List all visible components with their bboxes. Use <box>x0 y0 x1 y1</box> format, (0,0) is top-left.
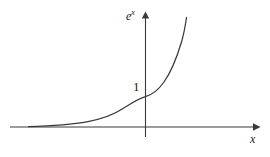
y-axis-label-exponent: x <box>131 8 135 17</box>
x-axis-label: x <box>250 133 255 145</box>
x-axis-group <box>10 123 261 131</box>
y-axis-group <box>142 12 149 138</box>
y-axis-arrowhead <box>142 12 149 19</box>
exponential-function-plot: ex 1 x <box>0 0 270 157</box>
y-axis-label: ex <box>126 10 135 22</box>
exponential-curve <box>29 18 187 127</box>
x-axis-arrowhead <box>253 123 261 131</box>
y-intercept-tick-label: 1 <box>133 80 140 93</box>
